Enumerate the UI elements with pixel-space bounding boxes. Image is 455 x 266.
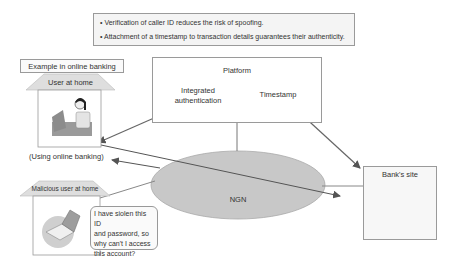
bank-site-box: Bank's site xyxy=(363,166,437,240)
speech-line-3: why can't I access xyxy=(94,239,154,249)
bank-to-user-arrow xyxy=(112,160,160,168)
note-caller-id: • Verification of caller ID reduces the … xyxy=(100,16,354,30)
user-home-label: User at home xyxy=(26,78,115,87)
integrated-authentication-label: Integrated authentication xyxy=(163,86,233,106)
speech-bubble: I have siolen this ID and password, so w… xyxy=(90,206,158,250)
malicious-home-label: Malicious user at home xyxy=(20,185,110,192)
note-timestamp: • Attachment of a timestamp to transacti… xyxy=(100,30,354,44)
timestamp-label: Timestamp xyxy=(243,90,313,100)
speech-line-4: this account? xyxy=(94,249,154,259)
bank-site-title: Bank's site xyxy=(364,170,436,179)
ngn-label: NGN xyxy=(218,195,258,204)
integrated-auth-line2: authentication xyxy=(163,96,233,106)
user-home-caption: (Using online banking) xyxy=(29,152,104,161)
example-label: Example in online banking xyxy=(20,59,124,73)
speech-line-2: and password, so xyxy=(94,229,154,239)
platform-title: Platform xyxy=(153,66,321,75)
notes-box: • Verification of caller ID reduces the … xyxy=(93,13,355,46)
speech-line-1: I have siolen this ID xyxy=(94,209,154,229)
integrated-auth-line1: Integrated xyxy=(163,86,233,96)
